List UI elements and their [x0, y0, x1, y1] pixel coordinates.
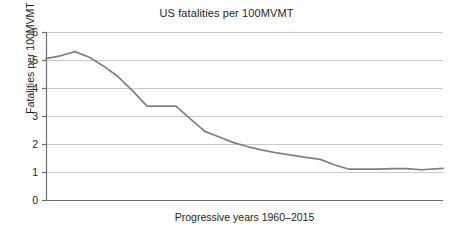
y-tick-label: 2: [32, 138, 38, 150]
y-tick-label: 4: [32, 82, 38, 94]
data-series-line: [46, 52, 443, 170]
chart-figure: US fatalities per 100MVMT Fatalities per…: [0, 0, 453, 236]
plot-area: 0123456: [0, 0, 453, 236]
y-tick-label: 5: [32, 54, 38, 66]
y-tick-marks: [42, 33, 46, 201]
y-tick-label: 0: [32, 194, 38, 206]
y-tick-label: 6: [32, 26, 38, 38]
y-tick-label: 1: [32, 166, 38, 178]
y-tick-labels: 0123456: [32, 26, 38, 206]
gridlines: [46, 33, 443, 173]
y-tick-label: 3: [32, 110, 38, 122]
